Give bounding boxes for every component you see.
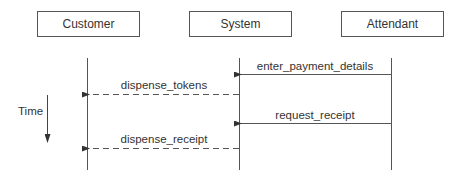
message-label: enter_payment_details [257, 60, 374, 72]
message-dispense-receipt: dispense_receipt [89, 133, 239, 149]
message-label: request_receipt [275, 109, 355, 121]
message-dispense-tokens: dispense_tokens [89, 79, 239, 95]
message-label: dispense_receipt [121, 133, 209, 145]
message-request-receipt: request_receipt [241, 109, 391, 124]
time-label: Time [18, 105, 43, 117]
message-enter-payment-details: enter_payment_details [241, 60, 391, 75]
message-label: dispense_tokens [121, 79, 208, 91]
time-axis: Time [18, 95, 48, 142]
diagram-canvas: enter_payment_details dispense_tokens re… [0, 0, 454, 181]
sequence-diagram: Customer System Attendant enter_payment_… [0, 0, 454, 181]
